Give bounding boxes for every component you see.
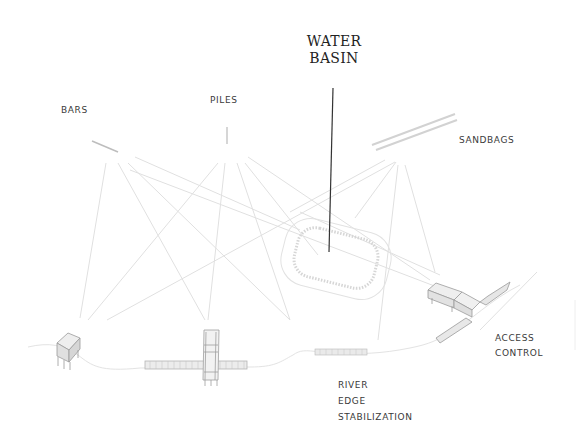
access-control-label: ACCESS CONTROL [495, 331, 543, 361]
sandbags-label: SANDBAGS [459, 133, 514, 147]
river-edge-label-line3: STABILIZATION [338, 409, 413, 425]
diagram-canvas [0, 0, 577, 438]
river-edge-label-line1: RIVER [338, 377, 413, 393]
left-module-structure [57, 333, 80, 370]
bars-object [92, 141, 118, 152]
water-basin-label-line1: WATER [303, 33, 365, 50]
river-edge-stabilization-label: RIVER EDGE STABILIZATION [338, 377, 413, 425]
access-control-label-line1: ACCESS [495, 331, 543, 346]
river-edge-structure [315, 349, 367, 355]
bridge-structure [145, 330, 247, 386]
water-basin-leader-line [329, 88, 333, 252]
piles-label: PILES [210, 93, 238, 107]
river-edge-label-line2: EDGE [338, 393, 413, 409]
sandbags-object [372, 114, 457, 150]
water-basin-label-line2: BASIN [303, 50, 365, 67]
water-basin-label: WATER BASIN [303, 33, 365, 67]
bars-label: BARS [61, 103, 88, 117]
access-control-label-line2: CONTROL [495, 346, 543, 361]
